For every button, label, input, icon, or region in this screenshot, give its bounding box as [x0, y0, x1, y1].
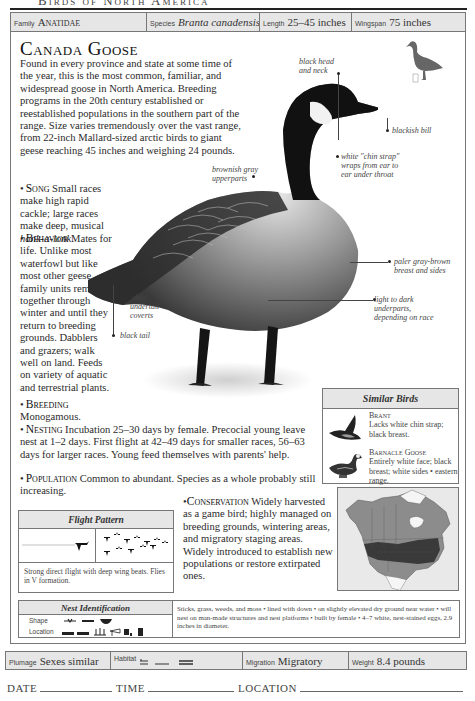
similar-bird-desc: Lacks white chin strap; black breast.: [369, 420, 443, 438]
length-value: 25–45 inches: [287, 16, 345, 28]
nest-location-icons: [62, 627, 162, 637]
time-label: TIME: [116, 682, 145, 694]
similar-bird-desc: Entirely white face; black breast; white…: [369, 457, 458, 485]
bullet: •: [20, 399, 24, 410]
callout-dot: [388, 260, 391, 263]
breeding-section: •Breeding Monogamous.: [20, 398, 220, 424]
conservation-heading: Conservation: [187, 495, 249, 507]
wingspan-value: 75 inches: [389, 16, 431, 28]
wingspan-label: Wingspan: [355, 20, 386, 27]
top-rule: [10, 8, 467, 10]
north-america-map-icon: [338, 488, 459, 591]
weight-value: 8.4 pounds: [377, 655, 425, 667]
location-field[interactable]: [300, 682, 463, 692]
flight-path-single: [19, 529, 96, 562]
brant-icon: [327, 413, 363, 443]
running-head-cut: Birds of North America: [0, 0, 475, 6]
population-section: •Population Common to abundant. Species …: [20, 472, 320, 498]
date-field[interactable]: [40, 682, 112, 692]
similar-birds-panel: Similar Birds Brant Lacks white chin str…: [322, 388, 459, 484]
barnacle-goose-icon: [327, 450, 363, 482]
length-cell: Length 25–45 inches: [260, 13, 352, 31]
time-field[interactable]: [148, 682, 234, 692]
flying-goose-icon: [19, 529, 96, 563]
callout-breast: paler gray-brown breast and sides: [394, 257, 474, 275]
goose-silhouette-icon: [405, 38, 445, 86]
bullet: •: [20, 183, 24, 194]
callout-leader: [113, 285, 114, 335]
callout-leader: [387, 118, 388, 130]
nest-shape-icons: [62, 617, 122, 625]
nest-location-row: Location: [19, 626, 172, 637]
conservation-section: •Conservation Widely harvested as a game…: [183, 495, 335, 583]
species-label: Species: [150, 20, 175, 27]
page-title: Canada Goose: [20, 38, 138, 60]
nesting-section: •Nesting Incubation 25–30 days by female…: [20, 423, 320, 461]
plumage-value: Sexes similar: [40, 655, 99, 667]
migration-value: Migratory: [278, 655, 323, 667]
footer-info-bar: Plumage Sexes similar Habitat Migration …: [5, 651, 467, 670]
callout-dot: [336, 155, 339, 158]
family-cell: Family Anatidae: [11, 13, 147, 31]
family-value: Anatidae: [38, 16, 81, 28]
flight-pattern-desc: Strong direct flight with deep wing beat…: [19, 563, 173, 589]
nest-identification-panel: Nest Identification Shape Location Stick…: [18, 600, 460, 638]
behavior-heading: Behavior: [26, 232, 69, 244]
similar-bird-barnacle-goose: Barnacle Goose Entirely white face; blac…: [323, 446, 458, 483]
flight-pattern-title: Flight Pattern: [19, 511, 173, 529]
plumage-label: Plumage: [9, 659, 37, 666]
callout-leader: [350, 262, 388, 263]
bullet: •: [20, 233, 24, 244]
nest-shape-row: Shape: [19, 615, 172, 626]
canada-goose-illustration: [88, 80, 378, 400]
callout-upperparts: brownish gray upperparts: [212, 165, 272, 183]
callout-dot: [252, 175, 255, 178]
nest-location-label: Location: [29, 628, 59, 635]
v-formation-icon: [96, 529, 173, 563]
migration-cell: Migration Migratory: [243, 652, 349, 669]
sighting-log: DATE TIME LOCATION: [7, 682, 467, 694]
habitat-label: Habitat: [114, 655, 136, 662]
habitat-cell: Habitat: [111, 652, 243, 669]
callout-undertail: white undertail coverts: [130, 293, 170, 320]
weight-cell: Weight 8.4 pounds: [349, 652, 466, 669]
flight-formation-v: [96, 529, 173, 562]
nest-identification-title: Nest Identification: [19, 601, 172, 615]
flight-pattern-diagrams: [19, 529, 173, 563]
song-heading: Song: [26, 182, 50, 194]
callout-tail: black tail: [120, 331, 150, 340]
similar-bird-brant: Brant Lacks white chin strap; black brea…: [323, 409, 458, 446]
callout-leader: [268, 300, 373, 301]
breeding-text: Monogamous.: [20, 411, 81, 422]
callout-head-neck: black head and neck: [299, 57, 359, 75]
range-map: [337, 487, 459, 591]
location-label: LOCATION: [238, 682, 297, 694]
nest-description: Sticks, grass, weeds, and moss • lined w…: [173, 601, 459, 637]
plumage-cell: Plumage Sexes similar: [6, 652, 111, 669]
breeding-heading: Breeding: [26, 398, 69, 410]
similar-birds-title: Similar Birds: [323, 389, 458, 409]
callout-chin-strap: white "chin strap" wraps from ear to ear…: [341, 152, 431, 179]
callout-underparts: light to dark underparts, depending on r…: [374, 295, 459, 322]
callout-leader: [338, 75, 339, 140]
nest-identification-key: Nest Identification Shape Location: [19, 601, 173, 637]
date-label: DATE: [7, 682, 37, 694]
nest-shape-label: Shape: [29, 617, 59, 624]
running-head: Birds of North America: [38, 0, 209, 6]
flight-pattern-panel: Flight Pattern: [18, 510, 174, 593]
population-heading: Population: [26, 472, 77, 484]
info-bar: Family Anatidae Species Branta canadensi…: [10, 12, 466, 32]
length-label: Length: [263, 20, 284, 27]
weight-label: Weight: [352, 659, 374, 666]
migration-label: Migration: [246, 659, 275, 666]
similar-bird-name: Brant: [369, 409, 458, 420]
species-cell: Species Branta canadensis: [147, 13, 260, 31]
conservation-text: Widely harvested as a game bird; highly …: [183, 496, 333, 581]
nesting-heading: Nesting: [26, 423, 63, 435]
wingspan-cell: Wingspan 75 inches: [352, 13, 465, 31]
species-value: Branta canadensis: [178, 16, 260, 28]
callout-bill: blackish bill: [392, 126, 431, 135]
habitat-icons: [139, 658, 199, 666]
bullet: •: [20, 424, 24, 435]
nesting-text: Incubation 25–30 days by female. Precoci…: [20, 424, 305, 460]
